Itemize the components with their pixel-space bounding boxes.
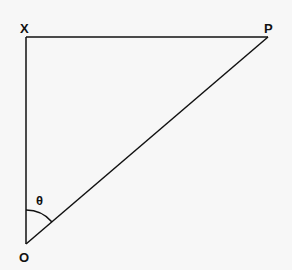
label-x: X	[20, 22, 29, 35]
label-o: O	[19, 251, 29, 264]
edge-op	[26, 37, 268, 244]
label-theta: θ	[36, 194, 43, 207]
label-p: P	[264, 22, 273, 35]
triangle-diagram: X P O θ	[0, 0, 292, 270]
triangle-figure	[0, 0, 292, 270]
angle-arc	[26, 210, 52, 222]
